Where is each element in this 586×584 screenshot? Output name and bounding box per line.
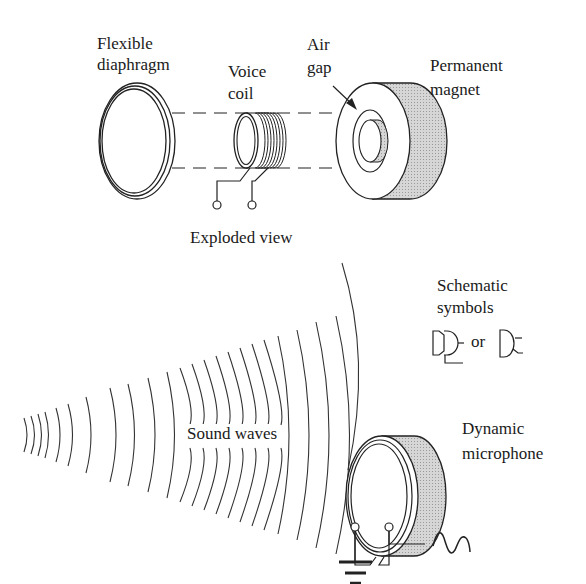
voice-coil-label-line1: Voice — [228, 62, 266, 81]
mic-schematic-symbol-alt-icon — [500, 330, 523, 357]
diaphragm-label-line2: diaphragm — [97, 55, 170, 74]
sound-waves-label: Sound waves — [187, 424, 277, 443]
permanent-magnet-label-line2: magnet — [430, 80, 480, 99]
air-gap-label-line2: gap — [307, 58, 332, 77]
schematic-or-text: or — [471, 332, 485, 351]
dynamic-microphone-label-line1: Dynamic — [462, 419, 524, 438]
sound-waves — [24, 263, 359, 554]
schematic-symbols-title-line1: Schematic — [437, 276, 508, 295]
permanent-magnet-label-line1: Permanent — [430, 56, 503, 75]
mic-terminal-icon — [351, 523, 359, 531]
schematic-symbols-title-line2: symbols — [437, 298, 494, 317]
dynamic-microphone-diagram: Flexible diaphragm Voice coil Air gap Pe… — [0, 0, 586, 584]
dynamic-microphone — [346, 436, 446, 565]
coil-terminal-icon — [248, 201, 256, 209]
coil-terminal-icon — [213, 201, 221, 209]
mic-schematic-symbol-icon — [433, 331, 464, 363]
dynamic-microphone-label-line2: microphone — [462, 444, 543, 463]
flexible-diaphragm — [99, 83, 175, 199]
voice-coil — [213, 113, 286, 209]
diaphragm-label-line1: Flexible — [97, 34, 153, 53]
exploded-view-caption: Exploded view — [190, 228, 292, 247]
mic-terminal-icon — [385, 523, 393, 531]
air-gap-label-line1: Air — [307, 35, 330, 54]
voice-coil-label-line2: coil — [228, 84, 254, 103]
